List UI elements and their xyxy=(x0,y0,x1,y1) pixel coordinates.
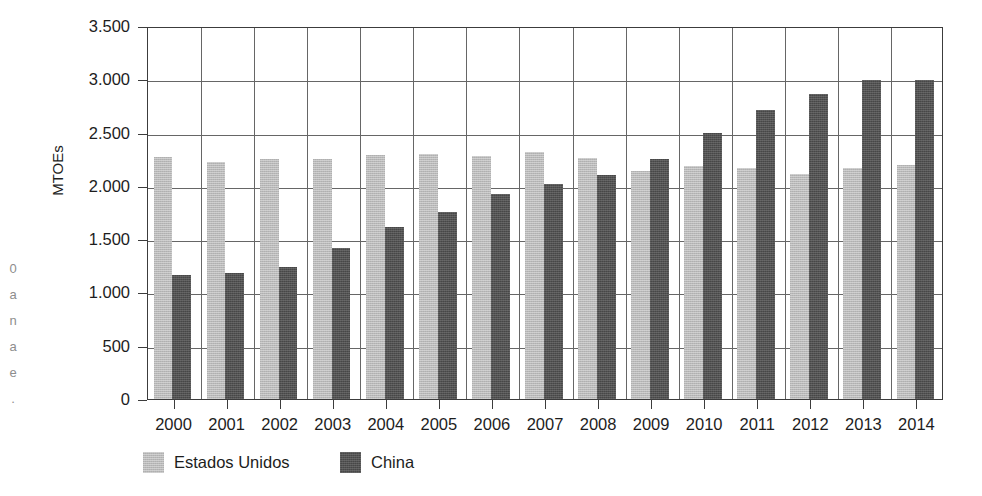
bar-estados-unidos-2014 xyxy=(897,165,916,399)
bar-china-2014 xyxy=(915,80,934,399)
bar-estados-unidos-2012 xyxy=(790,174,809,399)
y-axis-tick-label: 2.000 xyxy=(50,178,130,195)
y-axis-tick-label: 2.500 xyxy=(50,125,130,142)
y-axis-tick-label: 1.500 xyxy=(50,231,130,248)
margin-artifact-line: 0 xyxy=(0,256,26,282)
plot-area xyxy=(147,27,943,400)
bar-china-2013 xyxy=(862,80,881,399)
x-axis-tick xyxy=(757,400,758,409)
bar-china-2004 xyxy=(385,227,404,399)
bar-estados-unidos-2000 xyxy=(154,157,173,399)
margin-artifact-line: e xyxy=(0,360,26,386)
y-axis-tick-label: 500 xyxy=(50,338,130,355)
bar-china-2010 xyxy=(703,133,722,399)
x-axis-tick xyxy=(386,400,387,409)
y-axis-tick-labels: 05001.0001.5002.0002.5003.0003.500 xyxy=(45,0,130,496)
bar-estados-unidos-2013 xyxy=(843,168,862,399)
legend-swatch-cn xyxy=(340,452,361,473)
gridline-vertical xyxy=(679,28,680,399)
gridline-vertical xyxy=(838,28,839,399)
x-axis-tick xyxy=(492,400,493,409)
bar-estados-unidos-2010 xyxy=(684,166,703,399)
y-axis-tick xyxy=(138,80,147,81)
bar-china-2001 xyxy=(225,273,244,399)
gridline-vertical xyxy=(785,28,786,399)
legend-swatch-us xyxy=(143,452,164,473)
bar-estados-unidos-2003 xyxy=(313,159,332,399)
gridline-vertical xyxy=(413,28,414,399)
bar-china-2007 xyxy=(544,184,563,399)
chart-figure: 0anae. MTOEs 05001.0001.5002.0002.5003.0… xyxy=(0,0,982,496)
bar-china-2011 xyxy=(756,110,775,399)
margin-artifact-line: a xyxy=(0,282,26,308)
gridline-vertical xyxy=(307,28,308,399)
y-axis-tick xyxy=(138,187,147,188)
y-axis-tick xyxy=(138,400,147,401)
legend-label: China xyxy=(371,454,414,471)
y-axis-tick xyxy=(138,240,147,241)
x-axis-tick-label-2014: 2014 xyxy=(881,416,951,433)
x-axis-tick xyxy=(863,400,864,409)
bar-estados-unidos-2009 xyxy=(631,171,650,399)
y-axis-tick-label: 3.000 xyxy=(50,71,130,88)
y-axis-tick-label: 0 xyxy=(50,391,130,408)
bar-estados-unidos-2007 xyxy=(525,152,544,399)
x-axis-tick xyxy=(598,400,599,409)
gridline-vertical xyxy=(201,28,202,399)
bar-estados-unidos-2011 xyxy=(737,168,756,399)
x-axis-tick xyxy=(651,400,652,409)
gridline-vertical xyxy=(573,28,574,399)
y-axis-tick-label: 1.000 xyxy=(50,284,130,301)
bar-estados-unidos-2005 xyxy=(419,154,438,399)
margin-artifact-line: . xyxy=(0,386,26,412)
y-axis-tick xyxy=(138,347,147,348)
y-axis-tick-label: 3.500 xyxy=(50,18,130,35)
bar-china-2005 xyxy=(438,212,457,399)
margin-artifact-line: a xyxy=(0,334,26,360)
bar-china-2008 xyxy=(597,175,616,399)
gridline-vertical xyxy=(519,28,520,399)
x-axis-tick xyxy=(333,400,334,409)
bar-china-2009 xyxy=(650,159,669,399)
gridline-vertical xyxy=(466,28,467,399)
bar-estados-unidos-2001 xyxy=(207,162,226,399)
legend-label: Estados Unidos xyxy=(174,454,290,471)
x-axis-tick xyxy=(810,400,811,409)
x-axis-tick xyxy=(280,400,281,409)
x-axis-tick xyxy=(916,400,917,409)
page-margin-artifact: 0anae. xyxy=(0,256,26,412)
bar-estados-unidos-2006 xyxy=(472,156,491,399)
bar-china-2002 xyxy=(279,267,298,399)
x-axis-tick xyxy=(174,400,175,409)
gridline-horizontal xyxy=(148,81,942,82)
bar-china-2012 xyxy=(809,94,828,399)
gridline-vertical xyxy=(891,28,892,399)
legend-entry-china: China xyxy=(340,452,414,473)
bar-china-2003 xyxy=(332,248,351,399)
gridline-vertical xyxy=(254,28,255,399)
x-axis-tick xyxy=(227,400,228,409)
x-axis-tick xyxy=(704,400,705,409)
bar-estados-unidos-2004 xyxy=(366,155,385,399)
gridline-vertical xyxy=(732,28,733,399)
bar-china-2006 xyxy=(491,194,510,399)
y-axis-tick xyxy=(138,27,147,28)
bar-china-2000 xyxy=(172,275,191,399)
x-axis-tick xyxy=(545,400,546,409)
y-axis-tick xyxy=(138,134,147,135)
margin-artifact-line: n xyxy=(0,308,26,334)
bar-estados-unidos-2002 xyxy=(260,159,279,399)
y-axis-tick xyxy=(138,293,147,294)
x-axis-tick xyxy=(439,400,440,409)
legend-entry-estados-unidos: Estados Unidos xyxy=(143,452,290,473)
gridline-vertical xyxy=(360,28,361,399)
bar-estados-unidos-2008 xyxy=(578,158,597,399)
gridline-vertical xyxy=(626,28,627,399)
